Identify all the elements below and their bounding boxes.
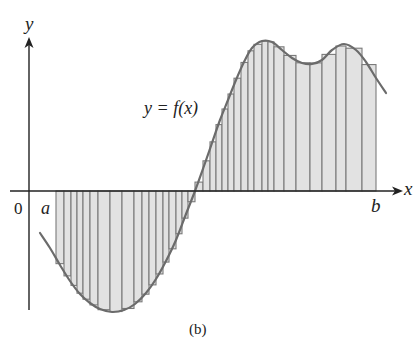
curve-label: y = f(x): [142, 98, 198, 119]
riemann-rectangle: [241, 62, 248, 191]
riemann-rectangle: [254, 44, 262, 191]
riemann-rectangle: [274, 47, 284, 191]
riemann-rectangle: [248, 51, 254, 191]
riemann-rectangle: [64, 191, 71, 276]
riemann-rectangles: [56, 41, 376, 311]
b-label: b: [371, 195, 381, 216]
riemann-rectangle: [56, 191, 64, 264]
riemann-rectangle: [336, 46, 346, 191]
figure-caption: (b): [189, 321, 207, 338]
riemann-rectangle: [83, 191, 90, 299]
riemann-rectangle: [296, 63, 310, 191]
y-axis-label: y: [23, 13, 34, 34]
riemann-rectangle: [142, 191, 149, 294]
riemann-rectangle: [163, 191, 169, 262]
riemann-rectangle: [149, 191, 156, 285]
riemann-rectangle: [216, 125, 222, 191]
riemann-rectangle: [228, 94, 234, 191]
riemann-rectangle: [268, 42, 274, 191]
x-axis-label: x: [403, 178, 413, 199]
riemann-rectangle: [77, 191, 83, 293]
riemann-sum-figure: y x 0 a b y = f(x) (b): [0, 0, 417, 344]
riemann-rectangle: [71, 191, 77, 285]
riemann-rectangle: [284, 55, 296, 191]
riemann-rectangle: [98, 191, 110, 310]
riemann-rectangle: [222, 109, 228, 191]
riemann-rectangle: [234, 78, 241, 191]
a-label: a: [41, 198, 50, 218]
riemann-rectangle: [322, 54, 336, 191]
riemann-rectangle: [122, 191, 134, 308]
origin-label: 0: [14, 199, 23, 218]
riemann-rectangle: [310, 63, 322, 191]
riemann-rectangle: [90, 191, 98, 305]
riemann-rectangle: [262, 41, 268, 191]
riemann-rectangle: [134, 191, 142, 302]
riemann-rectangle: [110, 191, 122, 312]
riemann-rectangle: [156, 191, 163, 274]
riemann-rectangle: [362, 65, 376, 191]
riemann-rectangle: [346, 48, 362, 191]
